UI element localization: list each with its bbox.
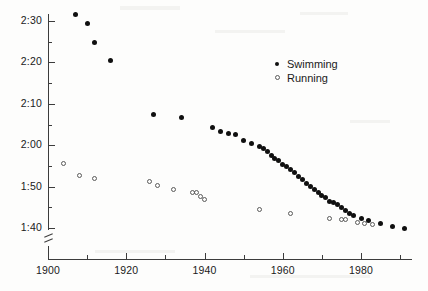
x-tick-label: 1960 [258,264,308,276]
paper-speckle [120,6,180,10]
open-circle-icon [275,75,280,80]
y-tick-minor [49,42,52,43]
data-point-swimming [241,138,246,143]
data-point-swimming [73,12,78,17]
legend-label-running: Running [275,71,328,85]
data-point-swimming [390,224,395,229]
data-point-swimming [378,221,383,226]
data-point-running [257,207,262,212]
y-tick [49,21,55,22]
x-tick [361,253,362,260]
x-tick-label: 1900 [23,264,73,276]
data-point-swimming [226,131,231,136]
y-tick-minor [49,166,52,167]
data-point-running [171,187,176,192]
x-tick [205,253,206,260]
x-tick-minor [165,255,166,260]
data-point-running [202,197,207,202]
y-tick-minor [49,125,52,126]
x-tick-minor [400,255,401,260]
y-tick [49,104,55,105]
chart-legend: Swimming Running [275,57,338,85]
data-point-running [92,176,97,181]
x-tick-label: 1920 [101,264,151,276]
filled-circle-icon [275,62,279,66]
data-point-running [147,179,152,184]
legend-label-swimming: Swimming [275,57,338,71]
y-tick-minor [49,207,52,208]
chart-container: 1:401:502:002:102:202:30 190019201940196… [0,0,428,291]
paper-speckle [350,120,390,123]
data-point-swimming [249,141,254,146]
y-tick-label: 1:40 [2,221,42,233]
y-tick-label: 2:10 [2,97,42,109]
data-point-running [362,221,367,226]
legend-item-swimming: Swimming [275,57,338,71]
y-tick [49,62,55,63]
data-point-running [288,211,293,216]
data-point-swimming [210,125,215,130]
x-tick [48,253,49,260]
paper-speckle [215,30,285,33]
data-point-running [370,222,375,227]
data-point-running [355,220,360,225]
x-tick-minor [87,255,88,260]
y-tick-label: 2:20 [2,55,42,67]
axis-break-icon [44,233,54,245]
data-point-running [155,183,160,188]
data-point-swimming [85,21,90,26]
y-tick [49,145,55,146]
x-tick-label: 1940 [180,264,230,276]
y-tick-minor [49,83,52,84]
y-tick-label: 2:00 [2,138,42,150]
data-point-swimming [233,132,238,137]
data-point-swimming [351,213,356,218]
data-point-swimming [108,58,113,63]
data-point-swimming [218,129,223,134]
legend-item-running: Running [275,71,338,85]
y-axis-line [48,14,49,230]
x-axis-line [48,259,412,260]
data-point-running [77,173,82,178]
x-tick [126,253,127,260]
x-tick-minor [322,255,323,260]
data-point-swimming [92,40,97,45]
x-tick-label: 1980 [336,264,386,276]
data-point-running [327,216,332,221]
paper-speckle [300,12,348,15]
data-point-swimming [151,112,156,117]
data-point-swimming [179,115,184,120]
y-tick [49,228,55,229]
x-tick [283,253,284,260]
data-point-running [343,217,348,222]
data-point-running [61,161,66,166]
y-tick [49,187,55,188]
y-tick-label: 1:50 [2,180,42,192]
data-point-swimming [402,226,407,231]
x-tick-minor [244,255,245,260]
y-tick-label: 2:30 [2,14,42,26]
paper-speckle [95,250,175,253]
